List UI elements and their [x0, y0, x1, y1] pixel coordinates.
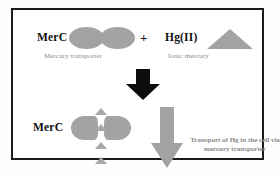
- mercury-ion-triangle-icon: [95, 124, 107, 131]
- mercury-ion-triangle-icon: [95, 142, 107, 149]
- merc-ellipse-left-icon: [69, 27, 104, 49]
- plus-operator: +: [140, 30, 147, 46]
- merc-label-bottom: MerC: [33, 121, 63, 133]
- mercury-ion-triangle-icon: [95, 157, 107, 164]
- ionic-mercury-caption: Ionic mercury: [168, 52, 209, 60]
- hg-label: Hg(II): [165, 31, 198, 43]
- mercury-transporter-caption: Mercury transporter: [44, 52, 102, 60]
- merc-label-top: MerC: [37, 31, 67, 43]
- transport-direction-arrow-icon: [150, 107, 184, 169]
- merc-transporter-shape-top: [69, 27, 135, 49]
- mercury-ion-triangle-icon: [95, 108, 107, 115]
- merc-ellipse-right-icon: [100, 27, 135, 49]
- figure-root: MerC Mercury transporter + Hg(II) Ionic …: [0, 0, 280, 179]
- merc-ellipse-left-icon: [71, 116, 98, 140]
- merc-transporter-open-channel-shape: [71, 108, 131, 170]
- merc-ellipse-right-icon: [104, 116, 131, 140]
- transport-description-caption: Transport of Hg in the cell via mercury …: [189, 136, 280, 154]
- downward-reaction-arrow-icon: [125, 69, 161, 101]
- diagram-frame: MerC Mercury transporter + Hg(II) Ionic …: [11, 8, 264, 160]
- ionic-mercury-triangle-icon: [207, 29, 253, 49]
